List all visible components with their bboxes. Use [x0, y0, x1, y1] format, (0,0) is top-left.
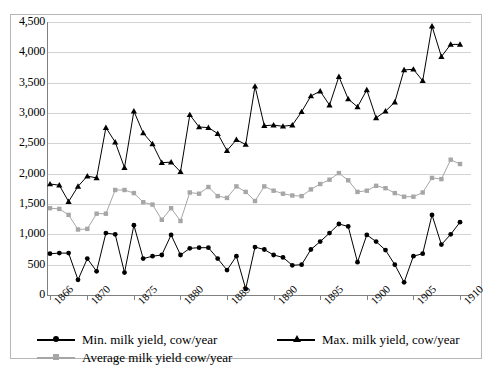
x-axis-line: [47, 295, 471, 296]
y-tick-label: 3,000: [1, 106, 45, 118]
clipped-title-strip: [0, 0, 492, 12]
data-point: [66, 251, 71, 256]
data-point: [458, 220, 463, 225]
data-point: [168, 159, 174, 164]
data-point: [429, 23, 435, 28]
data-point: [309, 247, 314, 252]
chart-legend: Min. milk yield, cow/yearMax. milk yield…: [37, 332, 457, 372]
data-point: [317, 88, 323, 93]
series-line: [50, 215, 460, 289]
legend-label: Max. milk yield, cow/year: [322, 332, 460, 348]
data-point: [188, 190, 192, 194]
data-point: [364, 233, 369, 238]
data-point: [66, 213, 70, 217]
data-point: [234, 184, 238, 188]
data-point: [449, 158, 453, 162]
data-point: [243, 287, 248, 292]
data-point: [383, 248, 388, 253]
data-point: [448, 232, 453, 237]
data-point: [290, 263, 295, 268]
y-tick-label: 0: [1, 288, 45, 300]
data-point: [233, 137, 239, 142]
data-point: [169, 206, 173, 210]
data-point: [243, 141, 249, 146]
data-point: [121, 165, 127, 170]
data-point: [374, 239, 379, 244]
data-point: [66, 199, 72, 204]
data-point: [57, 207, 61, 211]
data-point: [48, 206, 52, 210]
data-point: [225, 268, 230, 273]
data-point: [216, 194, 220, 198]
data-point: [411, 195, 415, 199]
data-point: [150, 254, 155, 259]
data-point: [439, 242, 444, 247]
data-point: [308, 93, 314, 98]
data-point: [402, 280, 407, 285]
y-tick-label: 4,000: [1, 45, 45, 57]
data-point: [122, 188, 126, 192]
data-point: [392, 99, 398, 104]
data-point: [271, 189, 275, 193]
y-tick-label: 1,000: [1, 227, 45, 239]
data-point: [373, 115, 379, 120]
data-point: [281, 192, 285, 196]
data-point: [122, 270, 127, 275]
data-point: [281, 255, 286, 260]
data-point: [327, 231, 332, 236]
data-point: [336, 74, 342, 79]
data-point: [225, 196, 229, 200]
legend-label: Min. milk yield, cow/year: [82, 332, 217, 348]
data-point: [140, 130, 146, 135]
data-point: [392, 262, 397, 267]
data-point: [85, 256, 90, 261]
data-point: [253, 199, 257, 203]
data-point: [290, 193, 294, 197]
legend-label: Average milk yield cow/year: [82, 350, 232, 366]
data-point: [47, 181, 53, 186]
legend-marker-icon: [293, 335, 301, 342]
data-point: [420, 251, 425, 256]
data-point: [318, 182, 322, 186]
data-point: [57, 251, 62, 256]
series-line: [50, 26, 460, 201]
data-point: [131, 108, 137, 113]
y-tick-label: 4,500: [1, 15, 45, 27]
data-point: [234, 254, 239, 259]
data-point: [345, 96, 351, 101]
data-point: [76, 277, 81, 282]
data-point: [337, 171, 341, 175]
y-tick-label: 3,500: [1, 76, 45, 88]
data-point: [430, 176, 434, 180]
data-point: [141, 256, 146, 261]
data-point: [458, 162, 462, 166]
series-plot: [47, 22, 471, 295]
data-point: [76, 227, 80, 231]
data-point: [159, 253, 164, 258]
data-point: [346, 224, 351, 229]
data-point: [94, 212, 98, 216]
data-point: [178, 219, 182, 223]
data-point: [365, 189, 369, 193]
data-point: [197, 245, 202, 250]
data-point: [94, 269, 99, 274]
data-point: [393, 191, 397, 195]
data-point: [252, 83, 258, 88]
y-tick-label: 2,000: [1, 167, 45, 179]
data-point: [48, 251, 53, 256]
data-point: [299, 194, 303, 198]
data-point: [132, 191, 136, 195]
data-point: [383, 186, 387, 190]
data-point: [215, 131, 221, 136]
data-point: [197, 192, 201, 196]
y-tick-label: 1,500: [1, 197, 45, 209]
data-point: [206, 185, 210, 189]
y-axis-labels: 4,5004,0003,5003,0002,5002,0001,5001,000…: [0, 0, 45, 345]
data-point: [253, 245, 258, 250]
data-point: [374, 184, 378, 188]
data-point: [112, 139, 118, 144]
data-point: [215, 256, 220, 261]
data-point: [206, 245, 211, 250]
data-point: [113, 232, 118, 237]
data-point: [141, 200, 145, 204]
